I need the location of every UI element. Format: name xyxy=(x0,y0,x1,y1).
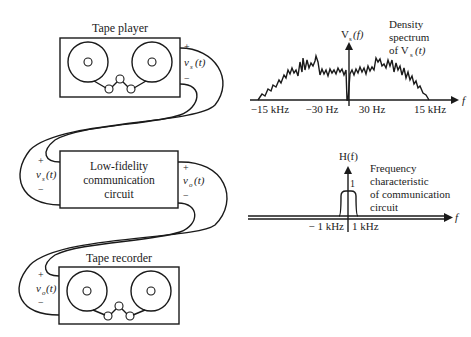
svg-text:v: v xyxy=(184,56,189,68)
svg-text:(t): (t) xyxy=(46,168,57,181)
svg-text:circuit: circuit xyxy=(370,201,398,213)
svg-text:spectrum: spectrum xyxy=(389,31,430,43)
tape-recorder-title: Tape recorder xyxy=(86,251,152,265)
svg-text:circuit: circuit xyxy=(104,188,134,200)
svg-text:−: − xyxy=(38,297,44,308)
x-axis-arrow-icon xyxy=(451,96,459,104)
svg-text:v: v xyxy=(183,174,188,186)
tape-player-box xyxy=(60,38,180,97)
svg-text:−: − xyxy=(184,73,190,84)
svg-text:1 kHz: 1 kHz xyxy=(352,220,379,232)
svg-text:+: + xyxy=(183,162,189,173)
svg-text:H(f): H(f) xyxy=(339,150,358,163)
svg-text:f: f xyxy=(462,94,467,106)
svg-text:s: s xyxy=(349,35,352,43)
spectrum-curve xyxy=(258,56,429,100)
svg-text:(t): (t) xyxy=(415,44,426,57)
reel-icon xyxy=(67,271,171,320)
svg-text:s: s xyxy=(190,63,193,71)
svg-text:Low-fidelity: Low-fidelity xyxy=(90,160,148,173)
svg-text:o: o xyxy=(189,181,193,189)
svg-text:f: f xyxy=(455,211,460,223)
svg-text:s: s xyxy=(410,51,413,59)
y-axis-arrow-icon xyxy=(345,42,353,50)
svg-text:+: + xyxy=(38,155,44,166)
svg-text:s: s xyxy=(42,175,45,183)
svg-text:v: v xyxy=(36,168,41,180)
svg-text:+: + xyxy=(184,41,190,52)
svg-text:Frequency: Frequency xyxy=(370,162,417,174)
tape-player-output-port: + v s (t) − xyxy=(184,41,206,84)
svg-text:− 1 kHz: − 1 kHz xyxy=(308,220,344,232)
tape-recorder-box xyxy=(59,267,179,324)
y-axis-arrow-icon xyxy=(344,166,352,174)
svg-text:(t): (t) xyxy=(46,282,57,295)
svg-text:−30 Hz: −30 Hz xyxy=(306,103,339,115)
svg-text:characteristic: characteristic xyxy=(370,175,429,187)
x-axis-arrow-icon xyxy=(444,213,453,222)
tape-player: Tape player + v s (t) − xyxy=(60,21,206,97)
svg-text:−: − xyxy=(38,184,44,195)
svg-text:−: − xyxy=(183,190,189,201)
svg-text:1: 1 xyxy=(350,178,355,189)
svg-text:of communication: of communication xyxy=(370,188,451,200)
reel-icon xyxy=(68,42,172,93)
tape-player-title: Tape player xyxy=(92,21,148,35)
tape-recorder: Tape recorder + v o (t) − xyxy=(36,251,179,324)
svg-text:communication: communication xyxy=(83,174,155,186)
svg-text:v: v xyxy=(36,282,41,294)
svg-text:30 Hz: 30 Hz xyxy=(359,103,386,115)
svg-text:(t): (t) xyxy=(195,56,206,69)
svg-text:15 kHz: 15 kHz xyxy=(414,103,446,115)
filter-plot: f H(f) 1 Frequency characteristic of com… xyxy=(248,150,460,232)
svg-text:(t): (t) xyxy=(194,174,205,187)
svg-text:V: V xyxy=(341,28,349,40)
svg-text:−15 kHz: −15 kHz xyxy=(251,103,289,115)
communication-circuit: Low-fidelity communication circuit + v s… xyxy=(36,151,205,208)
spectrum-plot: f V s (f) Density spectrum of V s (t) −1… xyxy=(250,18,467,115)
svg-text:Density: Density xyxy=(389,18,424,30)
svg-text:+: + xyxy=(38,269,44,280)
circuit-output-port: + v o (t) − xyxy=(183,162,205,201)
svg-text:of V: of V xyxy=(389,44,409,56)
svg-text:(f): (f) xyxy=(353,28,364,41)
